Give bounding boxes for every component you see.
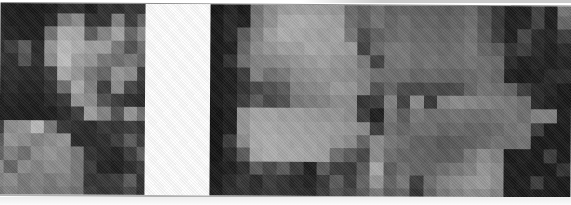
pixel-cell bbox=[423, 189, 436, 196]
pixel-cell bbox=[31, 67, 44, 80]
pixel-cell bbox=[263, 81, 276, 94]
pixel-cell bbox=[464, 123, 477, 136]
pixel-cell bbox=[276, 148, 289, 161]
pixel-cell bbox=[437, 56, 450, 69]
pixel-cell bbox=[58, 13, 71, 26]
pixel-cell bbox=[250, 161, 263, 174]
pixel-cell bbox=[71, 67, 84, 80]
pixel-cell bbox=[518, 30, 531, 43]
white-gap bbox=[144, 4, 210, 195]
pixel-cell bbox=[4, 173, 17, 186]
pixel-cell bbox=[384, 95, 397, 108]
pixel-cell bbox=[31, 120, 44, 133]
pixel-cell bbox=[331, 28, 344, 41]
pixel-cell bbox=[31, 133, 44, 146]
pixel-cell bbox=[330, 148, 343, 161]
pixel-cell bbox=[478, 16, 491, 29]
pixel-cell bbox=[397, 29, 410, 42]
pixel-cell bbox=[137, 81, 145, 94]
pixel-cell bbox=[383, 175, 396, 188]
pixel-cell bbox=[237, 121, 250, 134]
pixel-cell bbox=[57, 173, 70, 186]
pixel-cell bbox=[397, 55, 410, 68]
pixel-cell bbox=[4, 146, 17, 159]
pixel-cell bbox=[544, 56, 557, 69]
pixel-cell bbox=[31, 107, 44, 120]
pixel-cell bbox=[544, 6, 557, 16]
pixel-cell bbox=[124, 94, 137, 107]
pixel-cell bbox=[316, 148, 329, 161]
pixel-cell bbox=[124, 161, 137, 174]
pixel-cell bbox=[223, 94, 236, 107]
pixel-cell bbox=[124, 4, 137, 14]
pixel-cell bbox=[110, 120, 123, 133]
pixel-cell bbox=[45, 27, 58, 40]
pixel-cell bbox=[224, 54, 237, 67]
pixel-cell bbox=[344, 68, 357, 81]
pixel-cell bbox=[464, 96, 477, 109]
pixel-cell bbox=[370, 69, 383, 82]
pixel-cell bbox=[44, 107, 57, 120]
pixel-cell bbox=[424, 16, 437, 29]
pixel-cell bbox=[344, 15, 357, 28]
pixel-cell bbox=[17, 120, 30, 133]
pixel-cell bbox=[210, 148, 223, 161]
pixel-cell bbox=[138, 41, 146, 54]
pixel-cell bbox=[210, 121, 223, 134]
pixel-cell bbox=[344, 42, 357, 55]
pixel-cell bbox=[317, 55, 330, 68]
pixel-cell bbox=[477, 69, 490, 82]
pixel-cell bbox=[397, 122, 410, 135]
pixel-cell bbox=[317, 82, 330, 95]
pixel-cell bbox=[57, 107, 70, 120]
pixel-cell bbox=[304, 42, 317, 55]
pixel-cell bbox=[4, 160, 17, 173]
pixel-cell bbox=[517, 96, 530, 109]
pixel-cell bbox=[544, 163, 557, 176]
pixel-cell bbox=[45, 3, 58, 13]
pixel-cell bbox=[530, 176, 543, 189]
pixel-cell bbox=[437, 176, 450, 189]
pixel-cell bbox=[264, 15, 277, 28]
pixel-cell bbox=[304, 68, 317, 81]
pixel-cell bbox=[330, 82, 343, 95]
pixel-cell bbox=[544, 83, 557, 96]
pixel-cell bbox=[504, 96, 517, 109]
pixel-cell bbox=[531, 83, 544, 96]
pixel-cell bbox=[517, 163, 530, 176]
pixel-cell bbox=[504, 56, 517, 69]
pixel-cell bbox=[58, 67, 71, 80]
pixel-cell bbox=[477, 109, 490, 122]
pixel-cell bbox=[503, 176, 516, 189]
pixel-cell bbox=[110, 160, 123, 173]
pixel-cell bbox=[463, 189, 476, 196]
pixel-cell bbox=[210, 14, 223, 27]
pixel-cell bbox=[264, 68, 277, 81]
pixel-cell bbox=[264, 41, 277, 54]
pixel-cell bbox=[111, 94, 124, 107]
pixel-cell bbox=[384, 109, 397, 122]
pixel-cell bbox=[490, 149, 503, 162]
pixel-cell bbox=[356, 162, 369, 175]
pixel-cell bbox=[124, 40, 137, 53]
pixel-cell bbox=[304, 5, 317, 15]
pixel-cell bbox=[478, 6, 491, 16]
pixel-cell bbox=[290, 95, 303, 108]
pixel-cell bbox=[370, 109, 383, 122]
pixel-cell bbox=[4, 66, 17, 79]
pixel-cell bbox=[31, 27, 44, 40]
pixel-cell bbox=[17, 160, 30, 173]
pixel-cell bbox=[31, 147, 44, 160]
pixel-cell bbox=[424, 122, 437, 135]
pixel-cell bbox=[111, 67, 124, 80]
pixel-cell bbox=[437, 122, 450, 135]
pixel-cell bbox=[544, 96, 557, 109]
pixel-cell bbox=[504, 136, 517, 149]
pixel-cell bbox=[530, 150, 543, 163]
pixel-cell bbox=[57, 187, 70, 194]
pixel-cell bbox=[31, 80, 44, 93]
pixel-cell bbox=[423, 176, 436, 189]
pixel-cell bbox=[237, 54, 250, 67]
pixel-cell bbox=[98, 54, 111, 67]
pixel-cell bbox=[124, 107, 137, 120]
